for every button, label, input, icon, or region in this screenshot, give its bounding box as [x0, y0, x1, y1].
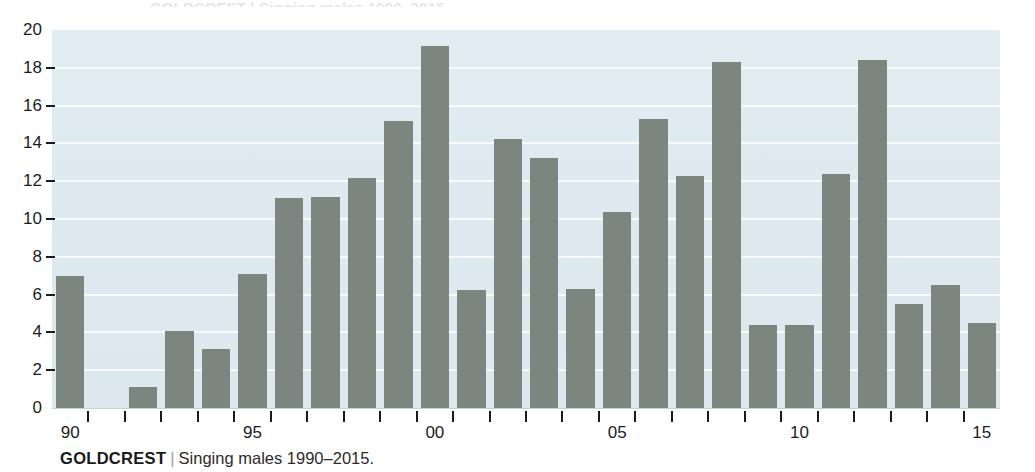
y-axis-label-18: 18	[10, 58, 42, 78]
chart-caption: GOLDCREST|Singing males 1990–2015.	[60, 449, 374, 468]
x-axis-tick	[233, 411, 235, 422]
y-axis-tick-12	[46, 180, 55, 182]
x-axis-tick	[634, 411, 636, 422]
x-axis-tick	[671, 411, 673, 422]
y-axis-label-2: 2	[10, 360, 42, 380]
x-axis-tick	[817, 411, 819, 422]
x-axis-label-90: 90	[50, 423, 90, 443]
bar	[895, 304, 923, 408]
x-axis-tick	[452, 411, 454, 422]
y-axis-label-16: 16	[10, 96, 42, 116]
bar	[968, 323, 996, 408]
top-bleed-text: GOLDCREST | Singing males 1990–2015.	[150, 0, 770, 7]
x-axis-tick	[124, 411, 126, 422]
y-axis-tick-6	[46, 294, 55, 296]
bar	[749, 325, 777, 408]
bar	[275, 198, 303, 408]
bar	[457, 290, 485, 408]
x-axis-tick	[561, 411, 563, 422]
x-axis-tick	[853, 411, 855, 422]
y-axis-tick-8	[46, 256, 55, 258]
x-axis-tick	[489, 411, 491, 422]
bar-series	[52, 30, 1000, 408]
caption-description: Singing males 1990–2015.	[179, 449, 374, 467]
y-axis-tick-18	[46, 67, 55, 69]
x-axis-label-95: 95	[233, 423, 273, 443]
bar	[603, 212, 631, 408]
x-axis-tick	[525, 411, 527, 422]
x-axis-tick	[270, 411, 272, 422]
bar	[56, 276, 84, 408]
x-axis-label-10: 10	[779, 423, 819, 443]
bar	[676, 176, 704, 408]
bar	[530, 158, 558, 408]
y-axis-label-6: 6	[10, 285, 42, 305]
bar	[311, 197, 339, 408]
bar	[639, 119, 667, 408]
x-axis-tick	[707, 411, 709, 422]
y-axis-label-14: 14	[10, 133, 42, 153]
x-axis-tick	[416, 411, 418, 422]
caption-separator: |	[166, 449, 178, 467]
y-axis-label-4: 4	[10, 322, 42, 342]
x-axis-tick	[343, 411, 345, 422]
x-axis-label-15: 15	[962, 423, 1002, 443]
x-axis-tick	[926, 411, 928, 422]
x-axis-tick	[744, 411, 746, 422]
x-axis-label-00: 00	[415, 423, 455, 443]
bar	[785, 325, 813, 408]
bar	[202, 349, 230, 408]
y-axis-tick-2	[46, 369, 55, 371]
bar	[712, 62, 740, 408]
x-axis-tick	[306, 411, 308, 422]
y-axis-label-12: 12	[10, 171, 42, 191]
bar	[494, 139, 522, 408]
y-axis-label-0: 0	[10, 398, 42, 418]
y-axis-tick-4	[46, 331, 55, 333]
x-axis-tick	[160, 411, 162, 422]
x-axis-tick	[780, 411, 782, 422]
caption-species-name: GOLDCREST	[60, 449, 166, 467]
x-axis-tick	[87, 411, 89, 422]
bar	[238, 274, 266, 408]
y-axis-tick-10	[46, 218, 55, 220]
bar	[566, 289, 594, 408]
bar	[822, 174, 850, 408]
x-axis-label-05: 05	[597, 423, 637, 443]
bar	[931, 285, 959, 408]
bar	[421, 46, 449, 408]
y-axis-label-10: 10	[10, 209, 42, 229]
plot-area	[52, 30, 1000, 408]
y-axis-tick-16	[46, 105, 55, 107]
x-axis-tick	[890, 411, 892, 422]
chart-figure: GOLDCREST | Singing males 1990–2015. 024…	[0, 0, 1035, 472]
x-axis-tick	[197, 411, 199, 422]
bar	[129, 387, 157, 408]
x-axis-tick	[963, 411, 965, 422]
bar	[348, 178, 376, 408]
x-axis-tick	[379, 411, 381, 422]
bar	[858, 60, 886, 408]
x-axis-tick	[598, 411, 600, 422]
bar	[165, 331, 193, 408]
y-axis-tick-14	[46, 142, 55, 144]
bar	[384, 121, 412, 408]
y-axis-label-20: 20	[10, 20, 42, 40]
y-axis-label-8: 8	[10, 247, 42, 267]
x-axis-line	[52, 408, 1000, 409]
